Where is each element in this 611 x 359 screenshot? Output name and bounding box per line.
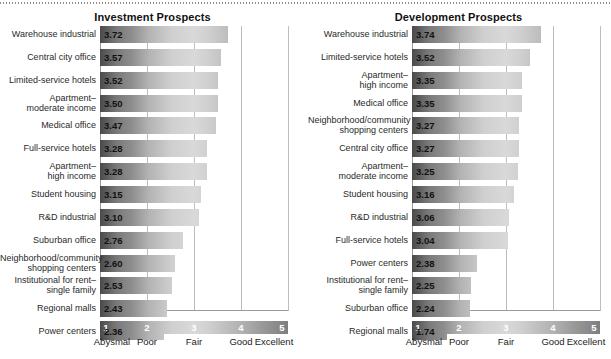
bar-value-label: 3.27 [416, 117, 435, 134]
gridline-5 [600, 26, 601, 311]
bar-row: 2.53 [100, 277, 288, 294]
bar-row: 3.16 [412, 186, 600, 203]
bar-value-label: 3.52 [416, 49, 435, 66]
bar-value-label: 3.25 [416, 163, 435, 180]
bar-row: 3.57 [100, 49, 288, 66]
scale-word-poor: Poor [137, 336, 157, 347]
scale-word-good: Good [229, 336, 252, 347]
category-label: Neighborhood/community shopping centers [308, 116, 408, 135]
bar-value-label: 3.50 [104, 95, 123, 112]
bar-value-label: 3.28 [104, 163, 123, 180]
category-label: Suburban office [0, 236, 96, 246]
category-label: Apartment– moderate income [308, 162, 408, 181]
development-prospects-panel: Development Prospects 3.743.523.353.353.… [306, 0, 611, 359]
category-label: Regional malls [0, 304, 96, 314]
category-label: Central city office [308, 144, 408, 154]
bar-value-label: 3.35 [416, 72, 435, 89]
bar-value-label: 2.24 [416, 300, 435, 317]
bar-row: 3.28 [100, 163, 288, 180]
category-label: Student housing [308, 190, 408, 200]
bar-row: 3.06 [412, 209, 600, 226]
category-label: Student housing [0, 190, 96, 200]
bar-value-label: 3.16 [416, 186, 435, 203]
scale-tick-4: 4 [238, 321, 243, 334]
scale-word-excellent: Excellent [567, 336, 606, 347]
scale-tick-2: 2 [144, 321, 149, 334]
category-label: Limited-service hotels [308, 53, 408, 63]
bar-row: 3.10 [100, 209, 288, 226]
scale-word-excellent: Excellent [255, 336, 294, 347]
bar-value-label: 1.74 [416, 323, 435, 340]
scale-tick-5: 5 [591, 321, 596, 334]
category-label: Power centers [308, 259, 408, 269]
charts-container: Investment Prospects 3.723.573.523.503.4… [0, 0, 611, 359]
bar-row: 3.27 [412, 140, 600, 157]
bar-value-label: 2.53 [104, 277, 123, 294]
bar-row: 3.50 [100, 95, 288, 112]
gridline-5 [288, 26, 289, 311]
bar-value-label: 2.25 [416, 277, 435, 294]
category-label: Power centers [0, 327, 96, 337]
development-prospects-title: Development Prospects [306, 11, 611, 23]
bar-row: 2.60 [100, 255, 288, 272]
bar-row: 3.28 [100, 140, 288, 157]
bar-row: 3.72 [100, 26, 288, 43]
category-label: Neighborhood/community shopping centers [0, 254, 96, 273]
bar-value-label: 2.43 [104, 300, 123, 317]
bar-row: 2.43 [100, 300, 288, 317]
bar-row: 2.24 [412, 300, 600, 317]
bar-row: 2.38 [412, 255, 600, 272]
category-label: Central city office [0, 53, 96, 63]
category-label: Regional malls [308, 327, 408, 337]
category-label: Full-service hotels [308, 236, 408, 246]
bar-value-label: 3.06 [416, 209, 435, 226]
category-label: R&D industrial [0, 213, 96, 223]
category-label: Medical office [308, 99, 408, 109]
bar-value-label: 3.47 [104, 117, 123, 134]
development-prospects-scale-legend: 1Abysmal2Poor3Fair4Good5Excellent [412, 321, 600, 334]
bar-row: 3.35 [412, 95, 600, 112]
bar-value-label: 3.52 [104, 72, 123, 89]
bar-row: 3.15 [100, 186, 288, 203]
bar-row: 3.25 [412, 163, 600, 180]
bar-value-label: 2.76 [104, 232, 123, 249]
bar-value-label: 3.27 [416, 140, 435, 157]
scale-word-good: Good [541, 336, 564, 347]
scale-tick-3: 3 [503, 321, 508, 334]
investment-prospects-title: Investment Prospects [0, 11, 305, 23]
investment-prospects-panel: Investment Prospects 3.723.573.523.503.4… [0, 0, 305, 359]
bar-value-label: 2.36 [104, 323, 123, 340]
category-label: Warehouse industrial [308, 30, 408, 40]
category-label: Institutional for rent– single family [0, 276, 96, 295]
investment-prospects-scale-legend: 1Abysmal2Poor3Fair4Good5Excellent [100, 321, 288, 334]
bar-value-label: 3.57 [104, 49, 123, 66]
bar-value-label: 3.72 [104, 26, 123, 43]
investment-prospects-plot-area: 3.723.573.523.503.473.283.283.153.102.76… [100, 26, 288, 311]
bar-value-label: 2.38 [416, 255, 435, 272]
category-label: Full-service hotels [0, 144, 96, 154]
bar-value-label: 3.35 [416, 95, 435, 112]
category-label: Institutional for rent– single family [308, 276, 408, 295]
category-label: Suburban office [308, 304, 408, 314]
category-label: Apartment– high income [0, 162, 96, 181]
bar-row: 3.52 [412, 49, 600, 66]
development-prospects-plot-area: 3.743.523.353.353.273.273.253.163.063.04… [412, 26, 600, 311]
scale-word-poor: Poor [449, 336, 469, 347]
bar-row: 3.52 [100, 72, 288, 89]
bar-value-label: 3.74 [416, 26, 435, 43]
scale-word-fair: Fair [498, 336, 514, 347]
scale-tick-3: 3 [191, 321, 196, 334]
scale-tick-4: 4 [550, 321, 555, 334]
category-label: Warehouse industrial [0, 30, 96, 40]
bar-value-label: 2.60 [104, 255, 123, 272]
category-label: R&D industrial [308, 213, 408, 223]
bar-row: 3.04 [412, 232, 600, 249]
bar-row: 3.74 [412, 26, 600, 43]
bar-value-label: 3.28 [104, 140, 123, 157]
bar-row: 3.35 [412, 72, 600, 89]
category-label: Medical office [0, 121, 96, 131]
bar-value-label: 3.04 [416, 232, 435, 249]
scale-tick-2: 2 [456, 321, 461, 334]
category-label: Apartment– moderate income [0, 94, 96, 113]
bar-row: 3.27 [412, 117, 600, 134]
